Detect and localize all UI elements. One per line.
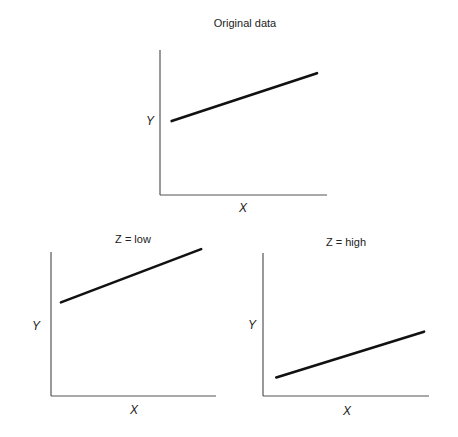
y-axis-label: Y: [248, 318, 257, 332]
y-axis-label: Y: [146, 114, 155, 128]
panel-z-high: Z = high Y X: [248, 236, 429, 418]
data-line: [172, 73, 317, 121]
panel-original: Original data Y X: [146, 17, 327, 215]
panel-z-low: Z = low Y X: [32, 233, 216, 417]
panel-title: Z = high: [326, 236, 366, 248]
x-axis-label: X: [238, 201, 248, 215]
data-line: [276, 332, 424, 378]
figure-canvas: Original data Y X Z = low Y X Z = high Y…: [0, 0, 458, 437]
y-axis-label: Y: [32, 319, 41, 333]
x-axis-label: X: [129, 403, 139, 417]
data-line: [61, 249, 201, 302]
x-axis-label: X: [342, 404, 352, 418]
panel-title: Original data: [214, 17, 277, 29]
panel-title: Z = low: [115, 233, 151, 245]
